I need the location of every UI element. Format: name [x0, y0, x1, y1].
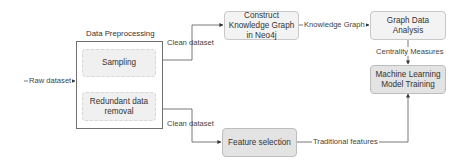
clean-dataset-top-label: Clean dataset: [166, 38, 215, 47]
construct-knowledge-graph-node: Construct Knowledge Graph in Neo4j: [224, 11, 299, 40]
knowledge-graph-label: Knowledge Graph: [303, 20, 366, 29]
redundant-data-removal-node: Redundant data removal: [82, 92, 156, 121]
preprocessing-group-title: Data Preprocessing: [86, 29, 154, 38]
clean-dataset-bottom-label: Clean dataset: [166, 119, 215, 128]
feature-selection-node: Feature selection: [222, 128, 297, 157]
raw-dataset-label: Raw dataset: [28, 76, 72, 85]
centrality-measures-label: Centrality Measures: [375, 47, 445, 56]
graph-data-analysis-node: Graph Data Analysis: [370, 11, 446, 40]
sampling-node: Sampling: [82, 49, 156, 77]
ml-model-training-node: Machine Learning Model Training: [370, 65, 446, 94]
traditional-features-label: Traditional features: [312, 137, 379, 146]
